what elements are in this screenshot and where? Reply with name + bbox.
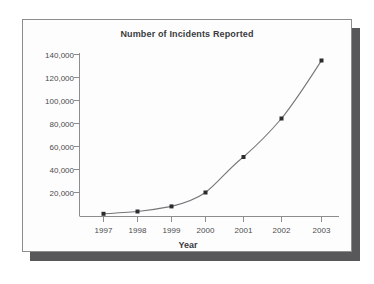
y-tick-label: 80,000	[50, 119, 74, 128]
data-point-1997	[102, 212, 106, 216]
x-tick-label-2003: 2003	[313, 226, 331, 235]
x-tick-label-2002: 2002	[273, 226, 291, 235]
x-tick-label-2001: 2001	[235, 226, 253, 235]
x-tick-marks	[104, 217, 322, 223]
y-tick-label: 100,000	[45, 96, 74, 105]
y-tick-label: 60,000	[50, 142, 74, 151]
figure-frame: Number of Incidents Reported	[22, 19, 352, 252]
x-tick-label-1998: 1998	[129, 226, 147, 235]
x-tick-label-1997: 1997	[95, 226, 113, 235]
data-point-1998	[136, 210, 140, 214]
data-line	[104, 61, 322, 214]
y-tick-marks	[74, 55, 80, 193]
data-point-2000	[204, 191, 208, 195]
plot-area: 140,000 120,000 100,000 80,000 60,000 40…	[23, 20, 353, 253]
data-point-2003	[320, 59, 324, 63]
x-tick-label-1999: 1999	[163, 226, 181, 235]
y-tick-label: 140,000	[45, 50, 74, 59]
chart-screenshot: Number of Incidents Reported	[0, 0, 374, 284]
y-tick-label: 20,000	[50, 188, 74, 197]
x-tick-label-2000: 2000	[197, 226, 215, 235]
data-point-2002	[280, 117, 284, 121]
data-point-1999	[170, 204, 174, 208]
data-markers	[102, 59, 324, 216]
y-tick-label: 120,000	[45, 73, 74, 82]
data-point-2001	[242, 155, 246, 159]
x-axis-title: Year	[23, 240, 353, 250]
y-tick-label: 40,000	[50, 165, 74, 174]
